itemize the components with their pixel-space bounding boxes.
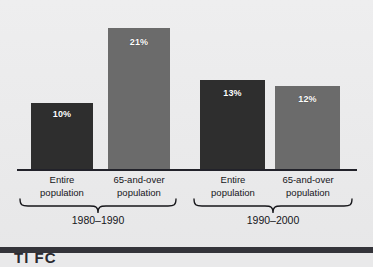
bar-1980-1990-65-and-over-population: 21% [108,28,170,170]
bar-value-label: 12% [275,94,340,104]
bar-value-label: 10% [31,109,93,119]
bar-value-label: 13% [200,88,265,98]
bar-value-label: 21% [108,37,170,47]
clipped-caption-text: Tl FC [14,253,57,266]
caption-band: Tl FC [0,253,373,267]
group-braces-row: 1980–1990 1990–2000 [0,198,373,240]
category-label-line1: Entire [24,174,100,187]
group-label-1990-2000: 1990–2000 [192,214,354,226]
category-label-line1: Entire [195,174,271,187]
category-label-1990-2000-entire-population: Entire population [195,174,271,199]
chart-baseline-axis [17,169,357,171]
category-label-line1: 65-and-over [101,174,177,187]
group-label-1980-1990: 1980–1990 [18,214,178,226]
brace-icon-1990-2000 [192,198,354,214]
bar-1990-2000-65-and-over-population: 12% [275,86,340,170]
category-label-1980-1990-65-and-over-population: 65-and-over population [101,174,177,199]
category-label-line1: 65-and-over [269,174,347,187]
category-label-1980-1990-entire-population: Entire population [24,174,100,199]
category-label-1990-2000-65-and-over-population: 65-and-over population [269,174,347,199]
chart-plot-area: 10% 21% 13% 12% [0,0,373,172]
bar-1980-1990-entire-population: 10% [31,103,93,170]
bar-1990-2000-entire-population: 13% [200,80,265,170]
figure-container: 10% 21% 13% 12% Entire population 65-and… [0,0,373,267]
brace-icon-1980-1990 [18,198,178,214]
